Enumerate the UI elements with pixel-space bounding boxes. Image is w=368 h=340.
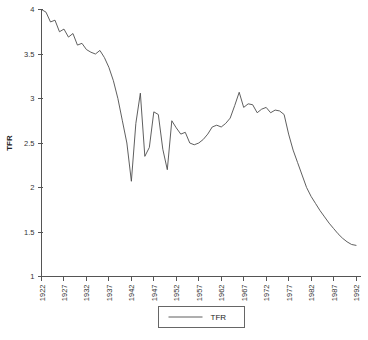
y-tick-label: 4 (30, 5, 34, 14)
x-tick-label: 1922 (38, 285, 47, 302)
series-line-tfr (42, 10, 357, 246)
x-tick-label: 1927 (60, 285, 69, 302)
x-tick-label: 1987 (330, 285, 339, 302)
tfr-line-chart: 11.522.533.54 19221927193219371942194719… (0, 0, 368, 340)
y-tick-label: 1.5 (24, 228, 34, 237)
y-tick-label: 3.5 (24, 50, 34, 59)
y-axis-title-label: TFR (5, 135, 14, 151)
x-axis: 1922192719321937194219471952195719621967… (38, 276, 362, 302)
y-tick-label: 3 (30, 94, 34, 103)
chart-container: 11.522.533.54 19221927193219371942194719… (0, 0, 368, 340)
x-tick-label: 1977 (285, 285, 294, 302)
y-tick-label: 2 (30, 183, 34, 192)
legend-item-label: TFR (211, 313, 227, 322)
x-tick-label: 1937 (105, 285, 114, 302)
x-tick-label: 1947 (150, 285, 159, 302)
x-tick-label: 1967 (240, 285, 249, 302)
x-tick-label: 1932 (82, 285, 91, 302)
data-series-group (42, 10, 357, 246)
x-tick-label: 1972 (262, 285, 271, 302)
y-tick-label: 1 (30, 272, 34, 281)
y-axis-title: TFR (5, 135, 14, 151)
x-tick-label: 1982 (307, 285, 316, 302)
x-tick-label: 1992 (352, 285, 361, 302)
x-tick-label: 1952 (172, 285, 181, 302)
y-axis: 11.522.533.54 (24, 5, 42, 281)
chart-legend[interactable]: TFR (159, 307, 245, 328)
x-tick-label: 1942 (127, 285, 136, 302)
y-tick-label: 2.5 (24, 139, 34, 148)
x-tick-label: 1957 (195, 285, 204, 302)
x-tick-label: 1962 (217, 285, 226, 302)
